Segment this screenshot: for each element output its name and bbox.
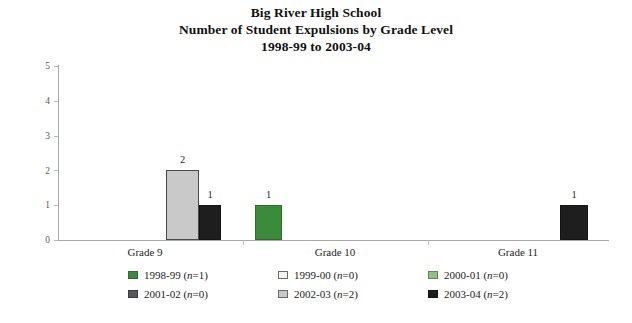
chart-legend: 1998-99 (n=1) 1999-00 (n=0) 2000-01 (n=0… xyxy=(128,269,558,307)
bar-value-grade11-2003-04: 1 xyxy=(560,189,588,200)
x-category-label-grade-10: Grade 10 xyxy=(290,246,380,258)
x-tick-divider-2 xyxy=(428,240,429,245)
legend-swatch-2002-03-icon xyxy=(278,290,288,298)
chart-title-line-1: Big River High School xyxy=(0,4,632,21)
y-tick-label-0: 0 xyxy=(28,235,50,245)
legend-item-2003-04[interactable]: 2003-04 (n=2) xyxy=(428,288,508,300)
legend-row-2: 2001-02 (n=0) 2002-03 (n=2) 2003-04 (n=2… xyxy=(128,288,558,307)
x-axis-line xyxy=(58,240,609,241)
x-category-label-grade-9: Grade 9 xyxy=(100,246,190,258)
legend-swatch-2003-04-icon xyxy=(428,290,438,298)
legend-item-2000-01[interactable]: 2000-01 (n=0) xyxy=(428,269,508,281)
bar-grade9-2003-04 xyxy=(199,205,221,240)
legend-swatch-2000-01-icon xyxy=(428,271,438,279)
legend-swatch-1998-99-icon xyxy=(128,271,138,279)
legend-item-2001-02[interactable]: 2001-02 (n=0) xyxy=(128,288,208,300)
chart-title: Big River High School Number of Student … xyxy=(0,4,632,55)
legend-swatch-2001-02-icon xyxy=(128,290,138,298)
expulsions-bar-chart: Big River High School Number of Student … xyxy=(0,0,632,323)
legend-label-2000-01: 2000-01 (n=0) xyxy=(444,269,508,281)
legend-label-2001-02: 2001-02 (n=0) xyxy=(144,288,208,300)
legend-label-2002-03: 2002-03 (n=2) xyxy=(294,288,358,300)
bar-grade11-2003-04 xyxy=(560,205,588,240)
bar-value-grade9-2003-04: 1 xyxy=(199,189,221,200)
plot-area: 2 1 1 1 xyxy=(58,66,608,240)
bar-value-grade10-1998-99: 1 xyxy=(255,189,282,200)
legend-label-1998-99: 1998-99 (n=1) xyxy=(144,269,208,281)
legend-label-2003-04: 2003-04 (n=2) xyxy=(444,288,508,300)
legend-item-2002-03[interactable]: 2002-03 (n=2) xyxy=(278,288,358,300)
legend-item-1998-99[interactable]: 1998-99 (n=1) xyxy=(128,269,208,281)
y-tick-label-2: 2 xyxy=(28,166,50,176)
chart-title-line-3: 1998-99 to 2003-04 xyxy=(0,38,632,55)
legend-row-1: 1998-99 (n=1) 1999-00 (n=0) 2000-01 (n=0… xyxy=(128,269,558,288)
legend-item-1999-00[interactable]: 1999-00 (n=0) xyxy=(278,269,358,281)
chart-title-line-2: Number of Student Expulsions by Grade Le… xyxy=(0,21,632,38)
bar-value-grade9-2002-03: 2 xyxy=(166,154,199,165)
legend-label-1999-00: 1999-00 (n=0) xyxy=(294,269,358,281)
bar-grade10-1998-99 xyxy=(255,205,282,240)
x-category-label-grade-11: Grade 11 xyxy=(473,246,563,258)
y-tick-label-5: 5 xyxy=(28,61,50,71)
x-tick-divider-1 xyxy=(243,240,244,245)
legend-swatch-1999-00-icon xyxy=(278,271,288,279)
y-tick-label-1: 1 xyxy=(28,200,50,210)
bar-grade9-2002-03 xyxy=(166,170,199,240)
y-tick-label-3: 3 xyxy=(28,131,50,141)
y-tick-label-4: 4 xyxy=(28,96,50,106)
